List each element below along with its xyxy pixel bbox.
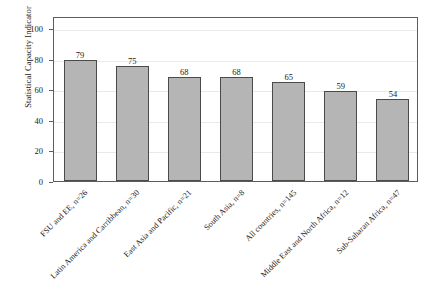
tick-mark: [49, 182, 53, 183]
bar-value-label: 68: [232, 67, 241, 77]
bar: [168, 77, 201, 181]
y-axis-tick-label: 40: [35, 116, 44, 126]
bar: [272, 82, 305, 181]
tick-mark: [49, 151, 53, 152]
bar: [64, 60, 97, 181]
bar-chart-figure: Statistical Capacity Indicator 797568686…: [0, 0, 438, 304]
bar: [324, 91, 357, 181]
tick-mark: [49, 90, 53, 91]
x-axis-category-label: Latin America and Carribbean, n=30: [49, 188, 142, 281]
x-axis-category-label: Middle East and North Africa, n=12: [259, 188, 350, 279]
bar: [116, 66, 149, 181]
x-axis-category-label: South Asia, n=8: [202, 188, 246, 232]
tick-mark: [49, 60, 53, 61]
x-axis-category-label: FSU and EE, n=26: [39, 188, 90, 239]
gridline: [54, 61, 417, 62]
bar: [376, 99, 409, 182]
tick-mark: [49, 121, 53, 122]
bar-value-label: 65: [284, 72, 293, 82]
y-axis-tick-label: 20: [35, 146, 44, 156]
y-axis-tick-label: 100: [30, 24, 43, 34]
bar-value-label: 59: [337, 81, 346, 91]
y-axis-tick-label: 80: [35, 55, 44, 65]
plot-area: 79756868655954: [53, 17, 418, 182]
bar-value-label: 75: [128, 56, 137, 66]
bar-value-label: 79: [76, 50, 85, 60]
y-axis-title: Statistical Capacity Indicator: [23, 0, 33, 137]
bar-value-label: 68: [180, 67, 189, 77]
x-axis-category-label: All countries, n=145: [243, 188, 298, 243]
bar-value-label: 54: [389, 89, 398, 99]
bar: [220, 77, 253, 181]
y-axis-tick-label: 0: [39, 177, 43, 187]
tick-mark: [49, 29, 53, 30]
gridline: [54, 30, 417, 31]
y-axis-tick-label: 60: [35, 85, 44, 95]
